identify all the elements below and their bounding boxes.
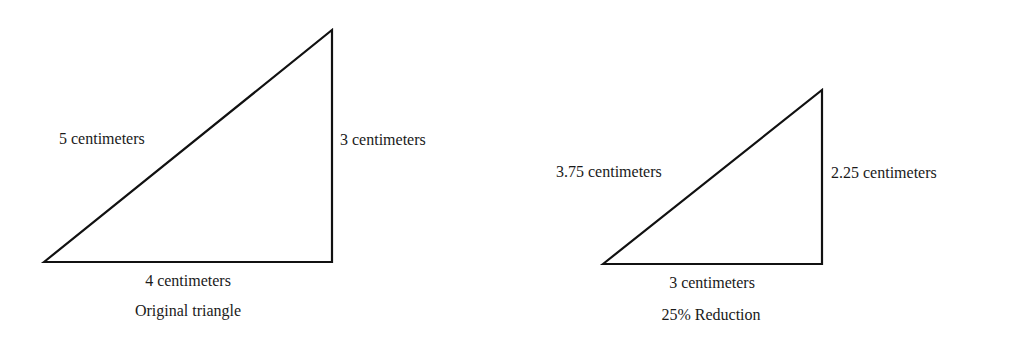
- original-base-label: 4 centimeters: [145, 272, 231, 290]
- reduced-caption: 25% Reduction: [661, 306, 760, 324]
- original-caption: Original triangle: [135, 302, 241, 320]
- reduced-vertical-label: 2.25 centimeters: [831, 164, 937, 182]
- reduced-hypotenuse-label: 3.75 centimeters: [556, 163, 662, 181]
- original-hypotenuse-label: 5 centimeters: [59, 130, 145, 148]
- reduced-base-label: 3 centimeters: [669, 274, 755, 292]
- original-vertical-label: 3 centimeters: [340, 131, 426, 149]
